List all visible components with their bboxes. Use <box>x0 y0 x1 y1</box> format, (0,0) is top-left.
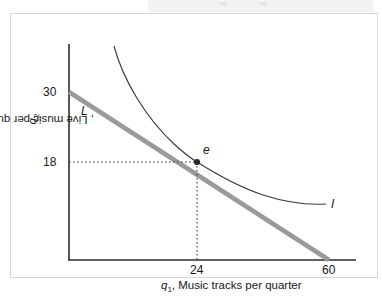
budget-line-label: L <box>81 105 88 117</box>
y-axis-title-text: , Live music per quarter <box>0 113 94 125</box>
x-axis-title-text: , Music tracks per quarter <box>172 279 302 291</box>
figure-panel: q2, Live music per quarter 30 18 24 60 q… <box>10 13 378 278</box>
y-axis-title: q2, Live music per quarter <box>25 44 43 194</box>
optimum-point-label: e <box>203 144 210 156</box>
x-axis-title: q1, Music tracks per quarter <box>161 280 302 294</box>
cropped-top-band <box>148 0 373 12</box>
plot-canvas <box>11 14 382 296</box>
x-tick-label-60: 60 <box>322 264 335 276</box>
indifference-curve-label: I <box>331 198 334 210</box>
budget-line-L <box>69 92 329 260</box>
y-tick-label-18: 18 <box>43 156 56 168</box>
optimum-point-marker-e <box>194 159 200 165</box>
y-tick-label-30: 30 <box>43 86 56 98</box>
indifference-curve-I <box>114 46 326 204</box>
x-tick-label-24: 24 <box>190 264 203 276</box>
